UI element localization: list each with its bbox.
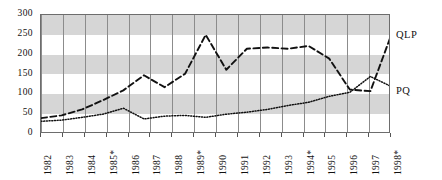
x-axis-tick-mark [281,133,282,137]
x-axis-tick-label: 1985* [110,150,120,175]
x-axis-tick-mark [40,133,41,137]
x-axis-tick-mark [259,133,260,137]
x-axis-tick-mark [237,133,238,137]
chart-figure: 300250200150100500 1982198319841985*1986… [0,0,442,180]
x-axis-tick-mark [324,133,325,137]
legend-label-pq: PQ [396,86,410,97]
x-axis-tick-label: 1998* [394,150,404,175]
x-axis-tick-label: 1982 [44,155,54,175]
x-axis-tick-label: 1997 [372,155,382,175]
y-axis-tick-label: 50 [0,108,33,118]
y-axis-tick-label: 200 [0,49,33,59]
legend-label-qlp: QLP [396,30,417,41]
y-axis-tick-label: 150 [0,69,33,79]
x-axis-tick-label: 1992 [263,155,273,175]
x-axis-tick-label: 1984 [88,155,98,175]
y-axis-tick-label: 0 [0,128,33,138]
x-axis-tick-mark [303,133,304,137]
y-axis-tick-label: 300 [0,9,33,19]
series-line-qlp [41,35,390,118]
x-axis-tick-mark [193,133,194,137]
x-axis-tick-label: 1988 [175,155,185,175]
x-axis-tick-mark [84,133,85,137]
y-axis-labels: 300250200150100500 [0,0,33,180]
x-axis-tick-mark [368,133,369,137]
x-axis-tick-label: 1983 [66,155,76,175]
x-axis-tick-label: 1986 [132,155,142,175]
x-axis-tick-label: 1990 [219,155,229,175]
y-axis-tick-label: 100 [0,88,33,98]
x-axis-tick-mark [106,133,107,137]
x-axis-tick-label: 1993 [285,155,295,175]
x-axis-tick-mark [346,133,347,137]
x-axis-tick-label: 1994* [307,150,317,175]
x-axis-tick-label: 1989* [197,150,207,175]
x-axis-tick-label: 1991 [241,155,251,175]
series-line-pq [41,76,390,121]
x-axis-tick-mark [215,133,216,137]
x-axis-tick-mark [149,133,150,137]
x-axis-labels: 1982198319841985*1986198719881989*199019… [40,133,390,180]
series-lines [41,15,390,133]
x-axis-tick-mark [128,133,129,137]
x-axis-tick-label: 1987 [153,155,163,175]
x-axis-tick-label: 1996 [350,155,360,175]
x-axis-tick-label: 1995 [328,155,338,175]
plot-area [40,14,390,133]
y-axis-tick-label: 250 [0,29,33,39]
x-axis-tick-mark [390,133,391,137]
x-axis-tick-mark [171,133,172,137]
x-axis-tick-mark [62,133,63,137]
